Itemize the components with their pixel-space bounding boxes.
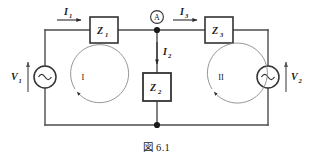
voltage-source-left [34,66,56,88]
impedance-z2-label: Z [149,82,156,93]
figure-caption: 図 6.1 [0,139,313,154]
node-a-marker: A [151,11,164,24]
node-a-label: A [154,13,160,22]
voltage-source-right [257,66,279,88]
mesh-loop-left-arc [71,45,129,103]
impedance-z1: Z 1 [90,17,118,43]
junction-dot-node-a [154,27,160,33]
voltage-v2-subscript: 2 [298,77,303,84]
impedance-z3-box [205,17,233,43]
impedance-z3-label: Z [211,25,218,36]
junction-dot-bottom [154,122,160,128]
current-i3-subscript: 3 [184,12,189,19]
impedance-z3: Z 3 [205,17,233,43]
mesh-loop-left-label: I [82,72,85,82]
voltage-v1-subscript: 1 [19,77,22,84]
impedance-z2-box [143,73,171,101]
impedance-z2: Z 2 [143,73,171,101]
mesh-loop-left: I [71,45,129,103]
impedance-z1-subscript: 1 [105,31,108,38]
mesh-loop-right-label: II [218,72,224,82]
current-i1-subscript: 1 [69,12,72,19]
impedance-z1-label: Z [96,25,103,36]
impedance-z1-box [90,17,118,43]
current-i2-subscript: 2 [167,52,172,59]
circuit-figure: Z 1 Z 3 Z 2 A V 1 [0,0,313,164]
